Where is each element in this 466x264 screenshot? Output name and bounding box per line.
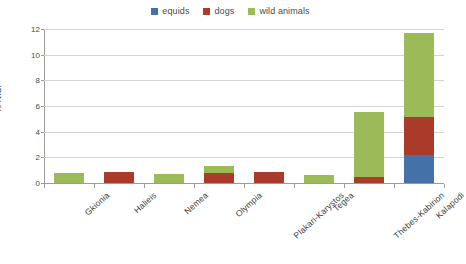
y-tick-mark bbox=[41, 183, 44, 184]
y-tick-label: 8 bbox=[12, 76, 40, 85]
x-tick-label: Plakari-Karystos bbox=[292, 190, 346, 240]
plot-area bbox=[44, 29, 444, 183]
bar-segment-wild-animals bbox=[354, 112, 384, 176]
x-tick-label: Gkionia bbox=[83, 190, 112, 217]
bar-thebes-kabirion bbox=[354, 112, 384, 183]
bar-segment-wild-animals bbox=[154, 174, 184, 183]
legend-label-equids: equids bbox=[162, 6, 189, 16]
legend-item-wild-animals: wild animals bbox=[248, 6, 309, 16]
y-tick-mark bbox=[41, 157, 44, 158]
legend-label-wild-animals: wild animals bbox=[259, 6, 309, 16]
bar-gkionia bbox=[54, 173, 84, 183]
x-tick-mark bbox=[344, 184, 345, 188]
legend-item-equids: equids bbox=[151, 6, 189, 16]
y-tick-mark bbox=[41, 80, 44, 81]
bar-segment-dogs bbox=[254, 172, 284, 183]
bar-segment-dogs bbox=[354, 177, 384, 183]
bar-tegea bbox=[304, 175, 334, 183]
bar-nemea bbox=[154, 174, 184, 183]
y-tick-mark bbox=[41, 55, 44, 56]
bar-halieis bbox=[104, 172, 134, 183]
y-tick-label: 0 bbox=[12, 179, 40, 188]
legend-swatch-wild-animals bbox=[248, 8, 255, 15]
x-tick-mark bbox=[44, 184, 45, 188]
gridline bbox=[44, 106, 444, 107]
bar-segment-wild-animals bbox=[54, 173, 84, 183]
x-tick-label: Olympia bbox=[233, 190, 264, 219]
y-tick-mark bbox=[41, 29, 44, 30]
bar-plakari-karystos bbox=[254, 172, 284, 183]
gridline bbox=[44, 132, 444, 133]
bar-segment-dogs bbox=[404, 117, 434, 155]
bar-segment-wild-animals bbox=[304, 175, 334, 183]
legend-swatch-dogs bbox=[203, 8, 210, 15]
y-tick-label: 4 bbox=[12, 127, 40, 136]
y-tick-mark bbox=[41, 106, 44, 107]
x-tick-mark bbox=[144, 184, 145, 188]
gridline bbox=[44, 80, 444, 81]
x-tick-mark bbox=[394, 184, 395, 188]
bar-kalapodi bbox=[404, 33, 434, 183]
bar-olympia bbox=[204, 166, 234, 183]
bar-segment-wild-animals bbox=[204, 166, 234, 173]
x-tick-mark bbox=[444, 184, 445, 188]
gridline bbox=[44, 55, 444, 56]
bar-segment-dogs bbox=[204, 173, 234, 183]
gridline bbox=[44, 29, 444, 30]
bar-segment-equids bbox=[404, 155, 434, 183]
y-tick-label: 12 bbox=[12, 25, 40, 34]
legend-item-dogs: dogs bbox=[203, 6, 234, 16]
y-tick-label: 6 bbox=[12, 102, 40, 111]
chart-legend: equids dogs wild animals bbox=[0, 6, 461, 16]
x-tick-mark bbox=[194, 184, 195, 188]
legend-swatch-equids bbox=[151, 8, 158, 15]
y-tick-mark bbox=[41, 132, 44, 133]
x-tick-mark bbox=[94, 184, 95, 188]
bar-segment-dogs bbox=[104, 172, 134, 183]
x-tick-mark bbox=[244, 184, 245, 188]
x-tick-label: Nemea bbox=[182, 190, 210, 216]
y-tick-label: 2 bbox=[12, 153, 40, 162]
gridline bbox=[44, 157, 444, 158]
y-axis-title: % NISP bbox=[0, 82, 3, 113]
x-axis-labels: GkioniaHalieisNemeaOlympiaPlakari-Karyst… bbox=[44, 184, 444, 264]
bar-segment-wild-animals bbox=[404, 33, 434, 117]
y-tick-label: 10 bbox=[12, 50, 40, 59]
x-tick-mark bbox=[294, 184, 295, 188]
legend-label-dogs: dogs bbox=[214, 6, 234, 16]
y-axis-ticks: 024681012 bbox=[8, 29, 40, 183]
x-tick-label: Halieis bbox=[132, 190, 158, 215]
